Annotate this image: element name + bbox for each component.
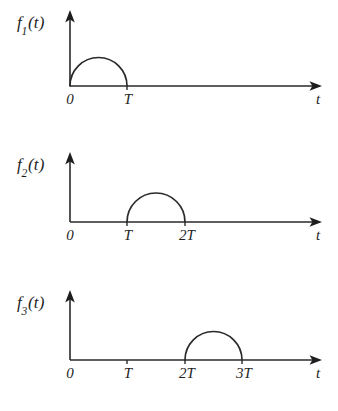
x-tick-label: 0 [66,228,74,243]
three-pulse-figure: f1(t) 0 T t f2(t) 0 T 2T t [0,0,338,411]
x-tick-label: 2T [179,228,195,243]
fn-subscript: 1 [21,25,27,37]
y-axis-function-label: f2(t) [17,156,45,177]
pulse-semicircle [185,332,242,361]
pulse-semicircle [127,193,185,222]
fn-argument: (t) [28,293,45,312]
x-tick-label: 0 [66,92,74,107]
x-tick-label: 2T [179,366,195,381]
x-tick-label: 3T [236,366,252,381]
chart-panel-f2: f2(t) 0 T 2T t [0,136,338,273]
x-axis-label: t [316,228,320,243]
x-tick-label: T [124,228,132,243]
fn-argument: (t) [28,13,45,32]
chart-panel-f3: f3(t) 0 T 2T 3T t [0,274,338,411]
x-axis-label: t [316,92,320,107]
fn-subscript: 2 [21,167,27,179]
chart-panel-f1: f1(t) 0 T t [0,0,338,137]
fn-argument: (t) [28,155,45,174]
y-axis-function-label: f3(t) [17,294,45,315]
x-axis-label: t [316,366,320,381]
x-tick-label: T [124,366,132,381]
y-axis-function-label: f1(t) [17,14,45,35]
pulse-semicircle [70,58,127,87]
x-tick-label: 0 [66,366,74,381]
x-tick-label: T [124,92,132,107]
fn-subscript: 3 [21,305,27,317]
